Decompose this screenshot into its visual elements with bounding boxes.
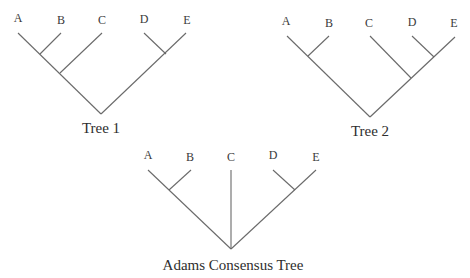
tip-label-C: C [227,150,235,164]
tree-1-edges [18,33,186,114]
tree-2-edges [287,36,455,117]
tip-label-D: D [140,12,149,26]
edge-root-to-A [287,36,370,117]
adams-tree-caption: Adams Consensus Tree [163,257,304,273]
edge-CDE-to-C [370,36,411,78]
tip-label-D: D [408,15,417,29]
edge-AB-to-B [169,170,191,190]
edge-root-to-A [148,170,231,249]
tree-1-tip-labels: A B C D E [14,11,191,27]
tip-label-E: E [183,13,190,27]
tip-label-B: B [186,150,194,164]
tip-label-A: A [14,11,23,25]
tip-label-E: E [312,150,319,164]
edge-AB-to-B [308,36,329,56]
edge-root-to-E [101,33,186,114]
edge-DE-to-D [273,170,295,190]
edge-DE-to-D [412,36,434,57]
tip-label-B: B [325,16,333,30]
tip-label-D: D [269,148,278,162]
tip-label-A: A [144,148,153,162]
adams-tree-tip-labels: A B C D E [144,148,320,164]
edge-DE-to-D [144,33,166,54]
tip-label-E: E [450,16,457,30]
tree-2-tip-labels: A B C D E [282,14,458,30]
edge-root-to-E [231,170,316,249]
tip-label-B: B [57,13,65,27]
adams-consensus-tree: A B C D E Adams Consensus Tree [144,148,320,273]
tree-1-caption: Tree 1 [82,120,120,136]
tree-diagram-canvas: A B C D E Tree 1 A B C D E Tree 2 [0,0,470,278]
edge-ABC-to-C [60,33,102,73]
tree-2-caption: Tree 2 [351,123,389,139]
adams-tree-edges [148,170,316,249]
tip-label-C: C [98,13,106,27]
tree-1: A B C D E Tree 1 [14,11,191,136]
edge-AB-to-B [40,33,61,54]
tip-label-C: C [365,16,373,30]
tree-2: A B C D E Tree 2 [282,14,458,139]
tip-label-A: A [282,14,291,28]
